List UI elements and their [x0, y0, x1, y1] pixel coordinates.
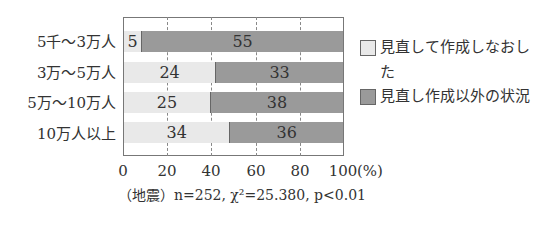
- legend: 見直して作成しなおした 見直し作成以外の状況: [360, 35, 530, 109]
- legend-item-revised: 見直して作成しなおした: [360, 35, 530, 84]
- x-axis-unit: (%): [357, 162, 383, 180]
- x-tick-label: 80: [290, 162, 309, 180]
- bar-segment-other: 36: [230, 122, 343, 143]
- legend-item-other: 見直し作成以外の状況: [360, 84, 530, 109]
- category-label: 10万人以上: [37, 124, 116, 144]
- category-label: 3万～5万人: [37, 63, 116, 83]
- category-label: 5万～10万人: [27, 93, 116, 113]
- legend-label: 見直して作成しなおした: [380, 35, 530, 84]
- bar-row: 25 38: [124, 92, 343, 113]
- legend-label: 見直し作成以外の状況: [380, 84, 530, 109]
- category-label: 5千～3万人: [37, 32, 116, 52]
- bar-segment-revised: 25: [124, 92, 211, 113]
- x-tick-label: 20: [157, 162, 176, 180]
- bar-row: 5 55: [124, 31, 343, 52]
- bar-segment-other: 55: [142, 31, 343, 52]
- statistics-footnote: （地震）n=252, χ²=25.380, p<0.01: [118, 184, 366, 204]
- bar-row: 24 33: [124, 62, 343, 83]
- x-tick-label: 100: [329, 162, 358, 180]
- bar-row: 34 36: [124, 122, 343, 143]
- legend-swatch-light: [360, 40, 376, 56]
- bar-segment-other: 33: [216, 62, 343, 83]
- bar-segment-revised: 34: [124, 122, 230, 143]
- bar-segment-revised: 24: [124, 62, 216, 83]
- bar-segment-other: 38: [211, 92, 343, 113]
- legend-swatch-dark: [360, 89, 376, 105]
- bar-segment-revised: 5: [124, 31, 142, 52]
- x-tick-label: 60: [246, 162, 265, 180]
- x-tick-label: 0: [118, 162, 128, 180]
- x-tick-label: 40: [201, 162, 220, 180]
